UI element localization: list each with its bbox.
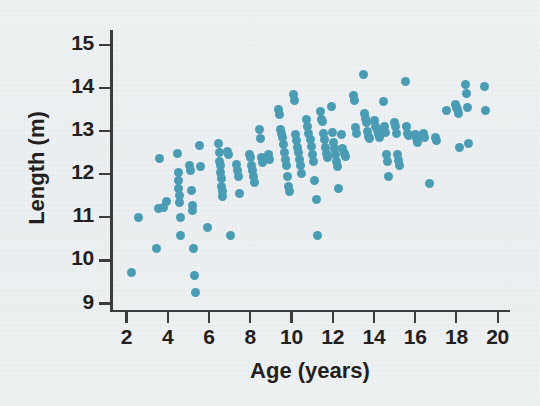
- data-point: [313, 231, 322, 240]
- data-point: [379, 97, 388, 106]
- data-point: [224, 150, 233, 159]
- data-point: [282, 161, 291, 170]
- data-point: [226, 231, 235, 240]
- data-point: [455, 143, 464, 152]
- plot-area: 9101112131415 2468101214161820 Age (year…: [0, 0, 540, 406]
- data-point: [250, 178, 259, 187]
- data-point: [454, 109, 463, 118]
- data-point: [328, 128, 337, 137]
- data-point: [425, 179, 434, 188]
- data-point: [285, 187, 294, 196]
- data-point: [318, 117, 327, 126]
- data-point: [173, 149, 182, 158]
- data-point: [176, 213, 185, 222]
- data-point: [187, 186, 196, 195]
- data-point: [464, 139, 473, 148]
- data-point: [234, 172, 243, 181]
- data-point: [188, 206, 197, 215]
- x-axis-title: Age (years): [110, 358, 510, 384]
- data-point: [395, 161, 404, 170]
- data-point: [383, 157, 392, 166]
- data-point: [480, 82, 489, 91]
- data-point: [195, 141, 204, 150]
- y-axis-title: Length (m): [24, 68, 50, 268]
- data-point: [352, 129, 361, 138]
- data-point: [392, 129, 401, 138]
- data-point: [442, 106, 451, 115]
- data-point: [365, 134, 374, 143]
- data-point: [191, 288, 200, 297]
- data-point: [283, 172, 292, 181]
- data-point: [203, 223, 212, 232]
- data-point: [127, 268, 136, 277]
- data-point: [175, 198, 184, 207]
- data-point: [337, 130, 346, 139]
- data-point: [255, 125, 264, 134]
- data-point: [432, 136, 441, 145]
- data-point: [481, 106, 490, 115]
- data-point: [401, 77, 410, 86]
- data-point: [297, 169, 306, 178]
- data-point: [310, 176, 319, 185]
- data-point: [384, 172, 393, 181]
- data-point: [256, 134, 265, 143]
- data-point: [327, 102, 336, 111]
- data-point: [152, 244, 161, 253]
- data-point: [312, 195, 321, 204]
- data-point: [341, 152, 350, 161]
- data-points-layer: [0, 0, 540, 406]
- scatter-plot-figure: 9101112131415 2468101214161820 Age (year…: [0, 0, 540, 406]
- data-point: [162, 197, 171, 206]
- data-point: [381, 128, 390, 137]
- data-point: [196, 162, 205, 171]
- data-point: [235, 189, 244, 198]
- data-point: [189, 244, 198, 253]
- data-point: [275, 110, 284, 119]
- data-point: [214, 139, 223, 148]
- data-point: [190, 271, 199, 280]
- data-point: [359, 70, 368, 79]
- data-point: [176, 231, 185, 240]
- data-point: [290, 96, 299, 105]
- data-point: [333, 162, 342, 171]
- data-point: [350, 96, 359, 105]
- data-point: [334, 184, 343, 193]
- data-point: [420, 133, 429, 142]
- data-point: [463, 103, 472, 112]
- data-point: [309, 157, 318, 166]
- data-point: [265, 155, 274, 164]
- data-point: [155, 154, 164, 163]
- data-point: [462, 89, 471, 98]
- data-point: [461, 80, 470, 89]
- data-point: [218, 192, 227, 201]
- data-point: [134, 213, 143, 222]
- data-point: [186, 166, 195, 175]
